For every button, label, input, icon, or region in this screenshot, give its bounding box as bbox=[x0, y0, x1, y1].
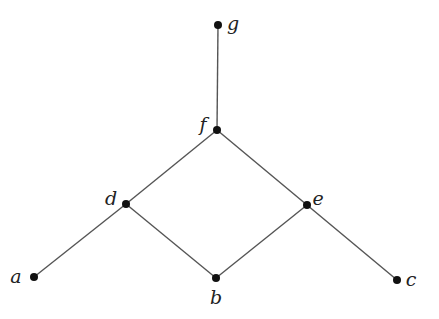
node-g bbox=[214, 21, 222, 29]
labels-group: abcdefg bbox=[10, 12, 416, 308]
node-e bbox=[303, 201, 311, 209]
edge-d-b bbox=[126, 204, 216, 278]
node-c bbox=[393, 276, 401, 284]
node-label-a: a bbox=[10, 265, 21, 287]
edge-e-f bbox=[217, 130, 307, 205]
hasse-diagram: abcdefg bbox=[0, 0, 439, 319]
node-label-g: g bbox=[227, 12, 239, 34]
edge-e-c bbox=[307, 205, 397, 280]
nodes-group bbox=[30, 21, 401, 284]
edge-b-e bbox=[216, 205, 307, 278]
node-b bbox=[212, 274, 220, 282]
node-a bbox=[30, 273, 38, 281]
node-label-d: d bbox=[105, 187, 117, 209]
node-label-b: b bbox=[210, 286, 222, 308]
edge-d-f bbox=[126, 130, 217, 204]
edge-a-d bbox=[34, 204, 126, 277]
node-label-e: e bbox=[312, 187, 323, 209]
node-label-c: c bbox=[406, 268, 417, 290]
node-d bbox=[122, 200, 130, 208]
diagram-svg: abcdefg bbox=[0, 0, 439, 319]
node-label-f: f bbox=[197, 113, 209, 135]
edges-group bbox=[34, 25, 397, 280]
edge-f-g bbox=[217, 25, 218, 130]
node-f bbox=[213, 126, 221, 134]
